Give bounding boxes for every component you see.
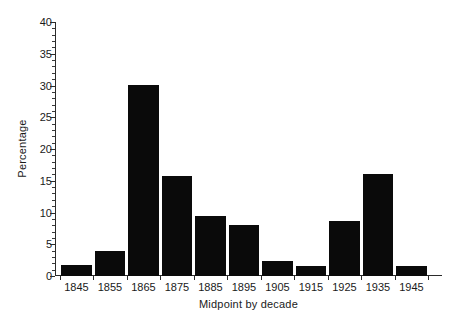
bar	[262, 261, 293, 276]
x-axis-tick	[261, 276, 262, 280]
bar	[229, 225, 260, 276]
bar	[95, 251, 126, 276]
x-axis-tick	[194, 276, 195, 280]
bar	[329, 221, 360, 276]
bar	[296, 266, 327, 276]
bar	[128, 85, 159, 276]
y-axis-tick-label: 5	[30, 239, 52, 249]
bar	[396, 266, 427, 276]
bar	[195, 216, 226, 276]
y-axis-tick-label: 30	[30, 81, 52, 91]
x-axis-tick-label: 1945	[390, 281, 434, 294]
x-axis-tick	[93, 276, 94, 280]
y-axis-tick-label: 10	[30, 208, 52, 218]
y-axis-tick-label-group: 0510152025303540	[30, 0, 52, 320]
x-axis-tick	[227, 276, 228, 280]
x-axis-title: Midpoint by decade	[55, 298, 442, 310]
plot-area	[55, 22, 442, 276]
y-axis-tick-label: 25	[30, 112, 52, 122]
x-axis-tick	[127, 276, 128, 280]
x-axis-tick	[294, 276, 295, 280]
bar	[61, 265, 92, 276]
bar	[363, 174, 394, 276]
bar-chart-figure: Percentage 0510152025303540 184518551865…	[0, 0, 454, 320]
x-axis-tick	[361, 276, 362, 280]
bar	[162, 176, 193, 276]
y-axis-tick-label: 20	[30, 144, 52, 154]
x-axis-tick	[60, 276, 61, 280]
y-axis-major-tick	[50, 276, 55, 277]
x-axis-tick	[160, 276, 161, 280]
y-axis-tick-label: 40	[30, 17, 52, 27]
y-axis-tick-label: 35	[30, 49, 52, 59]
y-axis-title: Percentage	[14, 22, 30, 275]
y-axis-tick-label: 0	[30, 271, 52, 281]
x-axis-tick	[428, 276, 429, 280]
x-axis-tick	[395, 276, 396, 280]
x-axis-tick	[328, 276, 329, 280]
y-axis-tick-label: 15	[30, 176, 52, 186]
